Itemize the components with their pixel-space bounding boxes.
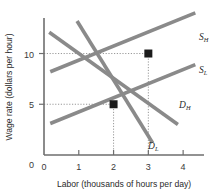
- xtick-label-2: 2: [111, 162, 116, 172]
- y-axis-title: Wage rate (dollars per hour): [4, 33, 14, 140]
- xtick-label-1: 1: [76, 162, 81, 172]
- curves: [49, 13, 195, 143]
- curve-label-s-h: SH: [199, 32, 209, 43]
- x-axis-title: Labor (thousands of hours per day): [57, 179, 191, 189]
- xtick-label-0: 0: [41, 162, 46, 172]
- curve-s-h: [50, 13, 195, 72]
- curve-label-s-h-sub: H: [203, 36, 209, 43]
- xtick-label-4: 4: [181, 162, 186, 172]
- curve-label-d-h: DH: [178, 100, 191, 111]
- xtick-label-3: 3: [146, 162, 151, 172]
- curve-label-d-h-sub: H: [185, 104, 191, 111]
- ytick-label-10: 10: [24, 50, 34, 60]
- ytick-label-0: 0: [29, 160, 34, 170]
- chart-svg: 0 1 2 3 4 0 5 10 SH SL DH DL Labor (th: [0, 0, 214, 194]
- ytick-label-5: 5: [29, 100, 34, 110]
- curve-d-l: [77, 21, 152, 143]
- curve-label-s-l: SL: [199, 65, 208, 76]
- curve-label-d-l-sub: L: [154, 145, 159, 152]
- curve-label-d-l: DL: [147, 141, 159, 152]
- curve-label-d-l-main: D: [147, 141, 155, 151]
- equilibrium-point-low: [110, 100, 118, 108]
- equilibrium-point-high: [144, 50, 152, 58]
- curve-label-s-l-sub: L: [203, 69, 208, 76]
- curve-labels: SH SL DH DL: [147, 32, 209, 152]
- curve-label-d-h-main: D: [178, 100, 186, 110]
- supply-demand-chart: 0 1 2 3 4 0 5 10 SH SL DH DL Labor (th: [0, 0, 214, 194]
